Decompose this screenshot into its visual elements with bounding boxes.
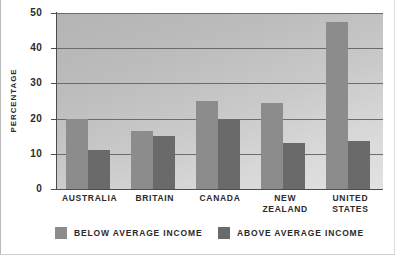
bar bbox=[196, 101, 218, 189]
bar bbox=[326, 22, 348, 189]
legend-item[interactable]: BELOW AVERAGE INCOME bbox=[55, 227, 202, 239]
bar bbox=[66, 119, 88, 189]
bar bbox=[131, 131, 153, 189]
category-label-line: AUSTRALIA bbox=[62, 193, 117, 203]
category-label-line: STATES bbox=[310, 204, 391, 215]
category-label-line: BRITAIN bbox=[135, 193, 174, 203]
category-label-line: UNITED bbox=[332, 193, 368, 203]
category-label-line: NEW bbox=[274, 193, 296, 203]
y-tick-label: 30 bbox=[8, 78, 42, 88]
bar bbox=[283, 143, 305, 189]
legend-label: BELOW AVERAGE INCOME bbox=[74, 228, 202, 238]
figure-border-left bbox=[0, 0, 1, 255]
y-tick-label: 50 bbox=[8, 8, 42, 18]
y-tick-label: 40 bbox=[8, 43, 42, 53]
plot-area bbox=[57, 13, 383, 189]
bar-chart-figure: PERCENTAGE 01020304050 AUSTRALIABRITAINC… bbox=[0, 0, 395, 255]
y-axis-line bbox=[56, 12, 57, 190]
y-axis-label: PERCENTAGE bbox=[9, 41, 18, 161]
x-axis-category-label: UNITEDSTATES bbox=[310, 193, 391, 214]
bar bbox=[88, 150, 110, 189]
bar bbox=[261, 103, 283, 189]
legend-swatch-icon bbox=[218, 227, 230, 239]
legend-item[interactable]: ABOVE AVERAGE INCOME bbox=[218, 227, 364, 239]
bar bbox=[348, 141, 370, 189]
legend-label: ABOVE AVERAGE INCOME bbox=[237, 228, 364, 238]
bar bbox=[153, 136, 175, 189]
category-label-line: CANADA bbox=[199, 193, 240, 203]
y-tick-label: 20 bbox=[8, 114, 42, 124]
gridline bbox=[57, 13, 383, 14]
legend-swatch-icon bbox=[55, 227, 67, 239]
y-tick-label: 0 bbox=[8, 184, 42, 194]
x-axis-line bbox=[56, 189, 383, 190]
bar bbox=[218, 119, 240, 189]
chart-legend: BELOW AVERAGE INCOMEABOVE AVERAGE INCOME bbox=[0, 227, 395, 247]
y-tick-label: 10 bbox=[8, 149, 42, 159]
